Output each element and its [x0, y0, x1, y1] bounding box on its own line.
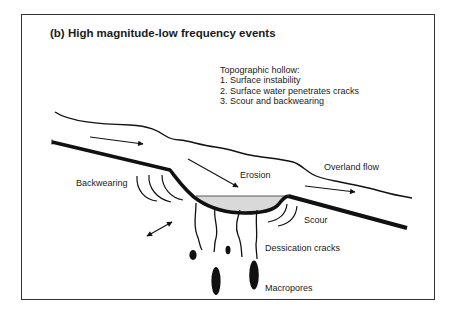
- label-macropores: Macropores: [265, 283, 313, 293]
- overland-flow-arrow: [305, 186, 355, 192]
- label-backwearing: Backwearing: [76, 178, 128, 188]
- hillslope-drawing: [0, 0, 456, 317]
- diagram-figure: (b) High magnitude-low frequency events …: [0, 0, 456, 317]
- label-dessication-cracks: Dessication cracks: [265, 243, 340, 253]
- flow-arrow-upslope: [90, 137, 143, 144]
- macropores-icon: [189, 246, 258, 295]
- label-erosion: Erosion: [240, 170, 271, 180]
- label-scour: Scour: [304, 215, 328, 225]
- erosion-arrow: [188, 159, 238, 187]
- double-arrow-icon: [147, 222, 172, 236]
- label-overland-flow: Overland flow: [324, 162, 379, 172]
